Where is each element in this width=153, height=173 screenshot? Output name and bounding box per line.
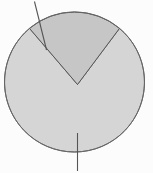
sector-diagram [0,0,153,173]
figure-root: Circle divided into two sectors with cal… [0,0,153,173]
